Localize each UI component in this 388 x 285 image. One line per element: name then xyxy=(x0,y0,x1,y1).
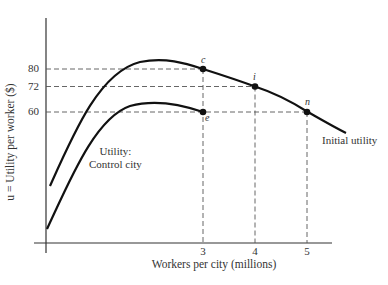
x-axis-title: Workers per city (millions) xyxy=(0,258,388,270)
y-tick-80: 80 xyxy=(28,62,39,74)
point-label-e: e xyxy=(205,112,209,123)
point-label-c: c xyxy=(201,54,205,65)
y-tick-60: 60 xyxy=(28,105,39,117)
y-axis-title: u = Utility per worker ($) xyxy=(4,62,16,222)
point-i xyxy=(252,83,259,90)
point-c xyxy=(200,66,207,73)
control-city-label-line2: Control city xyxy=(89,158,142,171)
point-label-i: i xyxy=(253,71,256,82)
point-label-n: n xyxy=(305,96,310,107)
y-tick-72: 72 xyxy=(28,80,39,92)
x-tick-5: 5 xyxy=(297,245,317,257)
point-n xyxy=(304,109,311,116)
x-tick-4: 4 xyxy=(245,245,265,257)
x-tick-3: 3 xyxy=(193,245,213,257)
initial-utility-label: Initial utility xyxy=(322,134,377,147)
control-city-label-line1: Utility: xyxy=(89,145,142,158)
control-city-label: Utility: Control city xyxy=(89,145,142,171)
